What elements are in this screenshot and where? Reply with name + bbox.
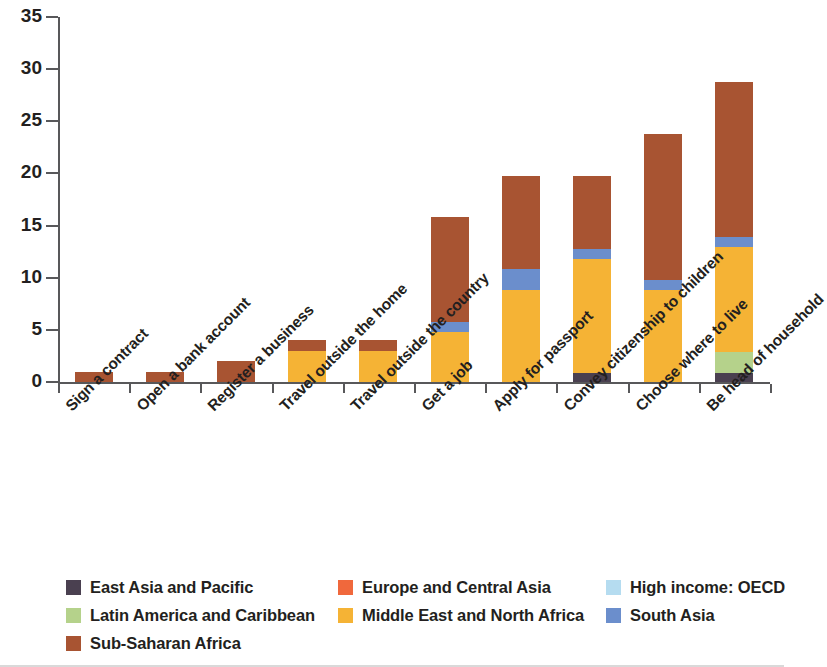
y-axis-tick [46, 172, 58, 174]
bar-0 [75, 17, 113, 382]
bar-segment [502, 176, 540, 270]
legend-label: Middle East and North Africa [362, 606, 584, 624]
y-axis-tick-label: 10 [8, 267, 42, 286]
bar-segment [502, 269, 540, 290]
legend-item[interactable]: Sub-Saharan Africa [66, 634, 241, 652]
legend-item[interactable]: Middle East and North Africa [338, 606, 584, 624]
legend-item[interactable]: East Asia and Pacific [66, 578, 253, 596]
y-axis-tick-label: 25 [8, 110, 42, 129]
legend-swatch-icon [66, 580, 81, 595]
legend-item[interactable]: South Asia [606, 606, 715, 624]
legend-label: East Asia and Pacific [90, 578, 253, 596]
y-axis-tick [46, 68, 58, 70]
y-axis-tick [46, 225, 58, 227]
y-axis-tick-label: 15 [8, 215, 42, 234]
bar-1 [146, 17, 184, 382]
legend-swatch-icon [338, 580, 353, 595]
y-axis-tick-label: 35 [8, 6, 42, 25]
bar-6 [502, 17, 540, 382]
legend-item[interactable]: High income: OECD [606, 578, 785, 596]
bar-segment [644, 134, 682, 280]
x-axis-labels: Sign a contractOpen a bank accountRegist… [0, 388, 784, 538]
y-axis-tick [46, 329, 58, 331]
chart-legend: East Asia and PacificLatin America and C… [66, 578, 784, 664]
legend-swatch-icon [606, 608, 621, 623]
bar-segment [715, 237, 753, 247]
bar-segment [573, 249, 611, 259]
legend-swatch-icon [606, 580, 621, 595]
bar-segment [573, 176, 611, 249]
top-edge [0, 0, 784, 3]
bar-segment [715, 82, 753, 237]
bar-segment [288, 340, 326, 350]
y-axis-labels: 05101520253035 [0, 0, 42, 400]
legend-swatch-icon [338, 608, 353, 623]
y-axis-tick [46, 16, 58, 18]
y-axis-tick [46, 381, 58, 383]
y-axis-tick-label: 20 [8, 162, 42, 181]
bars-layer [58, 17, 770, 382]
legend-swatch-icon [66, 608, 81, 623]
legend-item[interactable]: Latin America and Caribbean [66, 606, 315, 624]
bar-segment [359, 340, 397, 350]
legend-label: Europe and Central Asia [362, 578, 551, 596]
y-axis-tick-label: 30 [8, 58, 42, 77]
legend-label: High income: OECD [630, 578, 785, 596]
y-axis-tick [46, 120, 58, 122]
legend-item[interactable]: Europe and Central Asia [338, 578, 551, 596]
y-axis-tick-label: 5 [8, 319, 42, 338]
legend-label: Latin America and Caribbean [90, 606, 315, 624]
legend-label: South Asia [630, 606, 715, 624]
legend-swatch-icon [66, 636, 81, 651]
legend-label: Sub-Saharan Africa [90, 634, 241, 652]
y-axis-tick [46, 277, 58, 279]
